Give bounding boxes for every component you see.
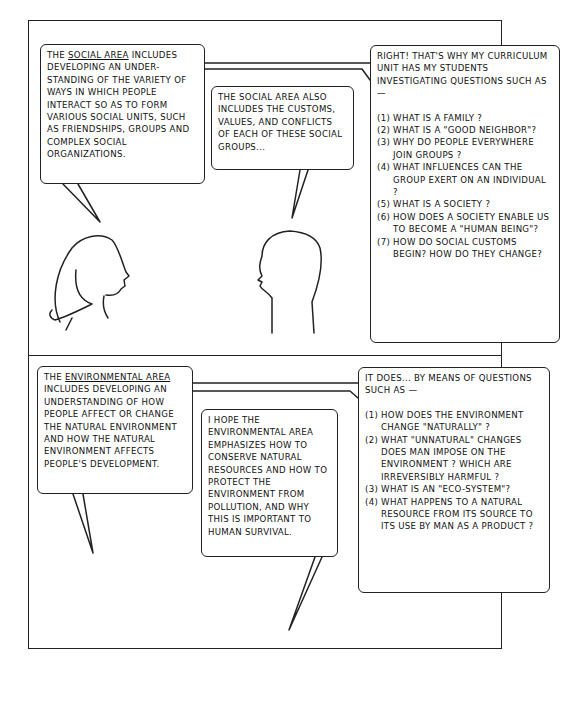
question-item: (4) What influences can the group exert …: [377, 161, 553, 198]
question-item: (1) What is a family ?: [377, 112, 553, 124]
question-item: (2) What is a "good neighbor"?: [377, 124, 553, 136]
question-item: (1) How does the environment change "nat…: [365, 409, 543, 434]
bubble-text: includes developing an understanding of …: [44, 384, 177, 468]
question-list: (1) What is a family ? (2) What is a "go…: [377, 112, 553, 261]
speech-bubble-social-teacher: Right! That's why my curriculum unit has…: [370, 45, 560, 343]
question-item: (6) How does a society enable us to beco…: [377, 211, 553, 236]
question-item: (2) What "unnatural" changes does man im…: [365, 434, 543, 484]
bubble-text: I hope the environmental area emphasizes…: [208, 414, 331, 538]
bubble-text: includes developing an under-standing of…: [47, 50, 189, 159]
underlined-term: social area: [68, 50, 129, 60]
question-item: (4) What happens to a natural resource f…: [365, 496, 543, 533]
speech-bubble-social-woman: The social area includes developing an u…: [40, 44, 205, 184]
panel-divider: [28, 355, 502, 356]
speech-bubble-environmental-woman: The environmental area includes developi…: [37, 366, 193, 494]
question-list: (1) How does the environment change "nat…: [365, 409, 543, 533]
speech-bubble-environmental-man: I hope the environmental area emphasizes…: [201, 409, 338, 557]
question-item: (5) What is a society ?: [377, 198, 553, 210]
bubble-text: The: [44, 372, 65, 382]
speech-bubble-social-man: The social area also includes the custom…: [211, 86, 354, 170]
underlined-term: environmental area: [65, 372, 170, 382]
bubble-text: The social area also includes the custom…: [218, 91, 347, 153]
question-item: (7) How do social customs begin? How do …: [377, 236, 553, 261]
question-item: (3) What is an "eco-system"?: [365, 483, 543, 495]
speech-bubble-environmental-teacher: It does... by means of questions such as…: [358, 367, 550, 593]
question-item: (3) Why do people everywhere join groups…: [377, 136, 553, 161]
bubble-text: The: [47, 50, 68, 60]
bubble-intro: Right! That's why my curriculum unit has…: [377, 50, 553, 100]
bubble-intro: It does... by means of questions such as…: [365, 372, 543, 397]
